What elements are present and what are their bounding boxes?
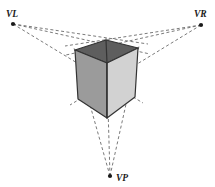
vanishing-point-left-label: VL (6, 9, 18, 19)
vanishing-point-right-label: VR (194, 9, 207, 19)
vanishing-point-left-dot (11, 22, 15, 26)
diagram-canvas: VLVRVP (0, 0, 215, 187)
cube-layer (75, 40, 138, 118)
vanishing-point-right-dot (199, 23, 203, 27)
vr-ray-to-top-apex (65, 25, 201, 46)
perspective-diagram: VLVRVP (0, 0, 215, 187)
vl-ray-to-top-apex (13, 24, 148, 44)
vanishing-point-bottom-label: VP (116, 173, 128, 183)
vanishing-point-bottom-dot (108, 174, 112, 178)
